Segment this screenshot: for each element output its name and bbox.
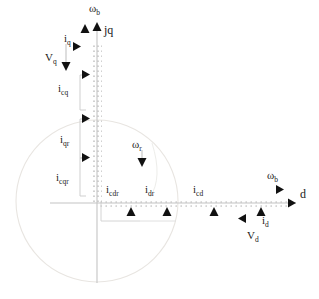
i-qr-sub: qr [63, 139, 69, 148]
marker-i-qr [82, 114, 90, 123]
marker-i-cdr [127, 207, 136, 216]
omega-b-q-sub: b [96, 8, 100, 17]
marker-v-d [238, 214, 246, 223]
q-axis-tick-band [93, 44, 102, 203]
q-axis-arrowhead [93, 22, 102, 31]
i-q-label: iq [64, 33, 71, 44]
phasor-diagram: ωb jq iq Vq icq iqr icqr ωr icdr idr icd… [0, 0, 319, 299]
marker-i-cd [210, 207, 219, 216]
bracket-i-cqr [80, 158, 86, 196]
marker-v-q [62, 62, 71, 71]
i-cq-label: icq [58, 83, 68, 94]
v-q-label: Vq [45, 52, 57, 63]
marker-i-q [81, 24, 90, 33]
i-q-sub: q [67, 38, 71, 47]
i-dr-sub: dr [148, 189, 154, 198]
bracket-i-qr [80, 119, 86, 158]
i-d-label: id [262, 215, 269, 226]
bracket-i-cq [80, 75, 86, 110]
v-q-sub: q [53, 57, 57, 66]
marker-i-dr [163, 207, 172, 216]
i-cqr-sub: cqr [59, 177, 69, 186]
marker-i-cq [82, 70, 90, 79]
i-dr-label: idr [145, 184, 154, 195]
i-cdr-sub: cdr [109, 189, 119, 198]
omega-r-sub: r [139, 144, 142, 153]
d-axis-tick-band [99, 199, 287, 207]
i-cd-label: icd [193, 184, 203, 195]
v-d-sub: d [255, 235, 259, 244]
marker-omega-b-d [276, 185, 284, 194]
d-axis-arrowhead [288, 199, 296, 208]
i-cq-sub: cq [61, 88, 68, 97]
marker-i-cqr [82, 153, 90, 162]
marker-omega-r [138, 158, 147, 167]
omega-r-label: ωr [132, 139, 142, 150]
i-cd-sub: cd [196, 189, 203, 198]
i-cdr-label: icdr [106, 184, 119, 195]
d-axis-label: d [300, 188, 306, 200]
omega-b-d-sub: b [274, 175, 278, 184]
v-d-label: Vd [247, 230, 259, 241]
i-d-sub: d [265, 220, 269, 229]
q-axis-label: jq [104, 24, 113, 36]
marker-i-q-right [73, 42, 81, 51]
i-qr-label: iqr [60, 134, 69, 145]
phasor-diagram-canvas [0, 0, 319, 299]
i-cqr-label: icqr [56, 172, 69, 183]
omega-b-d-label: ωb [267, 170, 278, 181]
omega-b-q-label: ωb [89, 3, 100, 14]
